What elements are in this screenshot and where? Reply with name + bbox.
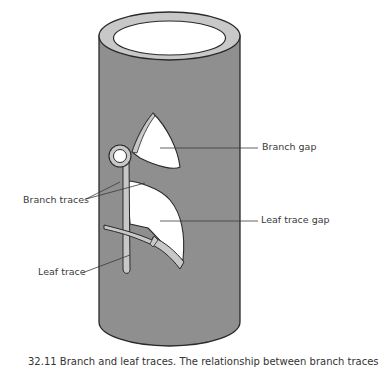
label-branch-traces: Branch traces [23,194,89,205]
label-leaf-trace-gap: Leaf trace gap [261,214,330,225]
stem-cylinder-body [99,36,240,346]
branch-trace-ring-hole [114,150,127,163]
figure-caption: 32.11 Branch and leaf traces. The relati… [28,356,379,367]
stem-pith-opening [114,21,226,55]
label-leaf-trace: Leaf trace [38,266,86,277]
label-branch-gap: Branch gap [262,141,316,152]
